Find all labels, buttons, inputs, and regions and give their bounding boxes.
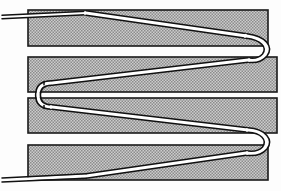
figure-root: Serpentine tube cross-section Technical … xyxy=(0,0,281,191)
technical-drawing xyxy=(0,0,281,191)
